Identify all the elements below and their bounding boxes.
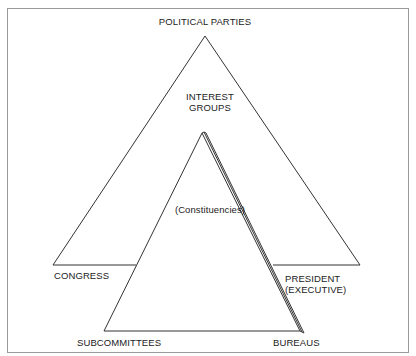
label-president-line1: PRESIDENT [285,273,340,284]
label-president-line2: (EXECUTIVE) [285,284,346,295]
inner-left-edge [104,133,202,331]
label-bureaus: BUREAUS [273,337,320,348]
inner-right-edge-3 [206,133,304,333]
label-interest-groups-line1: INTEREST [170,91,250,102]
label-political-parties: POLITICAL PARTIES [155,16,255,27]
label-subcommittees: SUBCOMMITTEES [77,337,161,348]
inner-right-edge-2 [204,132,302,332]
outer-right-edge [205,36,360,265]
outer-left-edge [53,36,205,265]
inner-right-edge-1 [202,133,300,331]
outer-triangle [53,36,360,265]
label-constituencies: (Constituencies) [160,204,260,215]
inner-triangle [104,132,304,333]
label-interest-groups-line2: GROUPS [170,102,250,113]
inner-apex-cap-1 [202,132,204,133]
iron-triangle-diagram [0,0,416,356]
label-congress: CONGRESS [54,270,109,281]
